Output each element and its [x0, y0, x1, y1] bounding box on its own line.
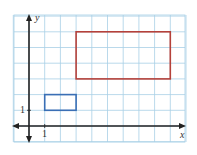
coordinate-plane-figure: y x 1 1 [0, 0, 197, 155]
y-tick-label-1: 1 [20, 105, 25, 115]
y-axis-label: y [35, 13, 39, 23]
x-tick-label-1: 1 [42, 129, 47, 139]
coordinate-grid [0, 0, 197, 155]
x-axis-label: x [180, 130, 184, 140]
